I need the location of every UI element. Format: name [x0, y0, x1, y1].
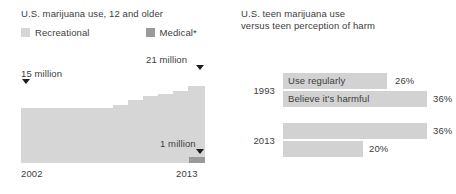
- callout-end-marker-icon: [196, 65, 204, 70]
- legend-swatch-medical: [146, 28, 155, 37]
- callout-medical-marker-icon: [196, 149, 204, 154]
- callout-medical-value: 1 million: [160, 138, 196, 149]
- left-chart-title: U.S. marijuana use, 12 and older: [21, 8, 163, 20]
- bar-chart-plot: 1993 Use regularly 26% Believe it's harm…: [241, 70, 456, 180]
- legend-swatch-recreational: [21, 28, 30, 37]
- bar-group-label-1993: 1993: [241, 85, 275, 96]
- area-series-recreational: [21, 86, 205, 163]
- legend-label-recreational: Recreational: [35, 27, 90, 38]
- bar-group-label-2013: 2013: [241, 135, 275, 146]
- axis-label-end-year: 2013: [176, 168, 198, 179]
- right-chart-title: U.S. teen marijuana use versus teen perc…: [241, 8, 375, 31]
- callout-start-marker-icon: [22, 79, 30, 84]
- left-chart-panel: U.S. marijuana use, 12 and older Recreat…: [0, 0, 228, 194]
- bar-value: 36%: [433, 124, 452, 138]
- bar-value: 36%: [433, 92, 452, 106]
- area-series-medical: [189, 157, 205, 163]
- bar-label: Believe it's harmful: [288, 92, 369, 106]
- left-chart-legend: Recreational Medical*: [21, 27, 197, 38]
- legend-item-recreational: Recreational: [21, 27, 90, 38]
- bar-value: 20%: [369, 142, 388, 156]
- callout-end-value: 21 million: [146, 54, 187, 65]
- infographic-figure: U.S. marijuana use, 12 and older Recreat…: [0, 0, 456, 194]
- callout-start-value: 15 million: [21, 68, 62, 79]
- axis-label-start-year: 2002: [21, 168, 43, 179]
- right-chart-panel: U.S. teen marijuana use versus teen perc…: [228, 0, 456, 194]
- legend-item-medical: Medical*: [146, 27, 197, 38]
- bar-label: Use regularly: [288, 74, 345, 88]
- legend-label-medical: Medical*: [160, 27, 197, 38]
- bar-value: 26%: [395, 74, 414, 88]
- bar-fill: [283, 123, 427, 139]
- area-chart-svg: [21, 83, 205, 163]
- bar-fill: [283, 141, 363, 157]
- area-chart-plot: [21, 83, 205, 163]
